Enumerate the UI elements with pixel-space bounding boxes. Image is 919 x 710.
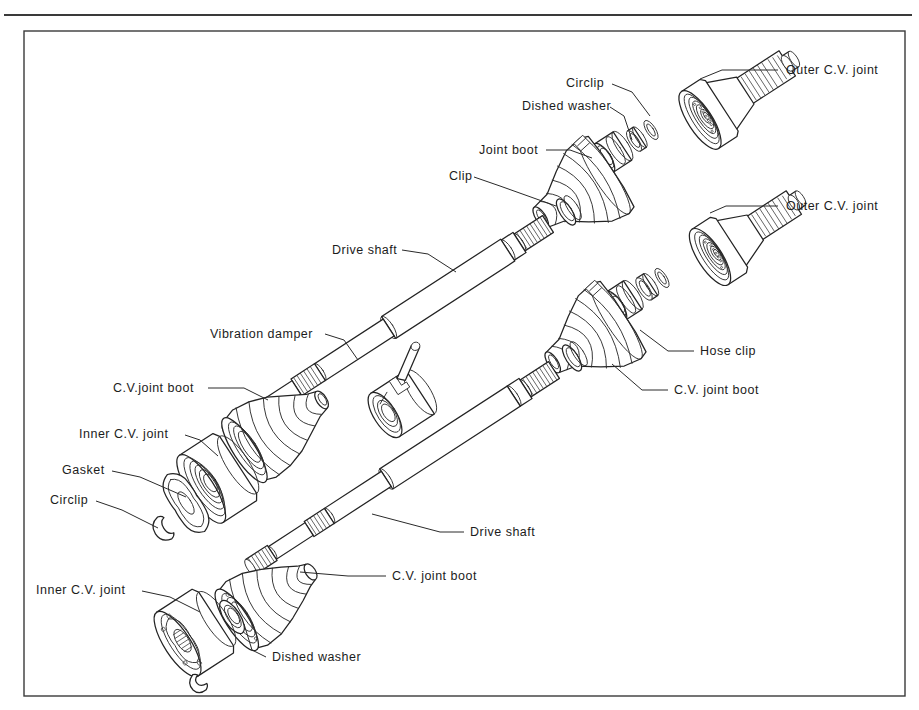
drive-shaft-exploded-diagram: Outer C.V. jointCirclipDished washerJoin… [0, 0, 919, 710]
outer-cv-joint-lower-part [682, 169, 821, 291]
circlip-upper-part [641, 118, 661, 141]
vibration-damper-part [351, 340, 456, 442]
callout-label-circlip-upper: Circlip [566, 76, 604, 90]
callout-label-clip-upper: Clip [449, 169, 473, 183]
callout-label-vibration-damper: Vibration damper [210, 327, 313, 341]
outer-cv-joint-upper-part [671, 29, 815, 155]
document-page: Outer C.V. jointCirclipDished washerJoin… [0, 0, 919, 710]
diagram-border [24, 31, 905, 696]
callout-label-joint-boot: Joint boot [479, 143, 538, 157]
callout-label-drive-shaft-upper: Drive shaft [332, 243, 397, 257]
callout-label-dished-washer-lower: Dished washer [272, 650, 361, 664]
callout-label-drive-shaft-lower: Drive shaft [470, 525, 535, 539]
callout-label-cv-joint-boot-right: C.V. joint boot [674, 383, 759, 397]
leader-line-drive-shaft-lower [372, 514, 464, 532]
label-text-group: Outer C.V. jointCirclipDished washerJoin… [36, 63, 878, 664]
callout-label-dished-washer-upper: Dished washer [522, 99, 611, 113]
callout-label-circlip-lower: Circlip [50, 493, 88, 507]
leader-line-circlip-upper [612, 84, 650, 116]
callout-label-gasket: Gasket [62, 463, 105, 477]
leader-line-drive-shaft-upper [402, 250, 456, 272]
page-frame [4, 15, 912, 696]
callout-label-cv-joint-boot-lower: C.V. joint boot [392, 569, 477, 583]
callout-label-inner-cv-joint-lower: Inner C.V. joint [36, 583, 126, 597]
leader-line-cv-joint-boot-right [612, 364, 668, 390]
callout-label-outer-cv-joint-lower: Outer C.V. joint [786, 199, 878, 213]
callout-label-hose-clip: Hose clip [700, 344, 756, 358]
leader-line-cv-joint-boot-upper [208, 388, 268, 400]
circlip-lower-left-part [148, 514, 176, 545]
upper-drive-shaft-assembly [148, 29, 815, 545]
callout-label-cv-joint-boot-upper: C.V.joint boot [113, 381, 194, 395]
callout-label-inner-cv-joint-upper: Inner C.V. joint [79, 427, 169, 441]
hose-clip-rings-part [652, 266, 672, 289]
leader-line-circlip-lower [96, 501, 158, 528]
callout-label-outer-cv-joint-upper: Outer C.V. joint [786, 63, 878, 77]
leader-line-clip-upper [474, 177, 556, 206]
leader-line-hose-clip [640, 330, 694, 351]
